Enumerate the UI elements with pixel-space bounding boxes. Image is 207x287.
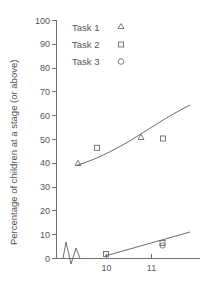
legend-label-task-3: Task 3 [72, 56, 99, 67]
legend-circle-icon [118, 59, 124, 65]
y-tick-label-100: 100 [35, 16, 50, 26]
lower-trend-line [105, 232, 190, 256]
y-tick-label-70: 70 [40, 87, 50, 97]
chart-plot-area: 100 90 80 70 60 50 40 30 20 10 0 10 11 P… [0, 0, 207, 287]
legend-label-task-1: Task 1 [72, 22, 99, 33]
y-tick-label-20: 20 [40, 206, 50, 216]
y-tick-label-90: 90 [40, 39, 50, 49]
y-axis-tick-labels: 100 90 80 70 60 50 40 30 20 10 0 [35, 16, 50, 264]
legend-entry-task-1: Task 1 [72, 22, 124, 33]
x-axis-break-icon [61, 242, 86, 264]
y-tick-label-30: 30 [40, 182, 50, 192]
chart-legend: Task 1 Task 2 Task 3 [72, 22, 124, 67]
upper-trend-curve [76, 105, 190, 166]
legend-square-icon [119, 42, 124, 47]
legend-label-task-2: Task 2 [72, 39, 99, 50]
y-tick-label-10: 10 [40, 230, 50, 240]
task2-square-marker-1 [95, 145, 100, 150]
y-axis-title: Percentage of children at a stage (or ab… [8, 60, 19, 245]
legend-entry-task-2: Task 2 [72, 39, 124, 50]
x-tick-label-10: 10 [101, 263, 111, 273]
x-axis-tick-labels: 10 11 [101, 263, 156, 273]
legend-entry-task-3: Task 3 [72, 56, 124, 67]
x-tick-label-11: 11 [147, 263, 156, 273]
y-axis-ticks [52, 21, 57, 259]
chart-figure: 100 90 80 70 60 50 40 30 20 10 0 10 11 P… [0, 0, 207, 287]
y-tick-label-0: 0 [45, 254, 50, 264]
y-tick-label-40: 40 [40, 158, 50, 168]
y-tick-label-60: 60 [40, 111, 50, 121]
task2-square-marker-2 [161, 136, 166, 141]
legend-triangle-icon [118, 24, 124, 29]
y-tick-label-50: 50 [40, 135, 50, 145]
x-axis-ticks [107, 254, 152, 259]
y-tick-label-80: 80 [40, 63, 50, 73]
